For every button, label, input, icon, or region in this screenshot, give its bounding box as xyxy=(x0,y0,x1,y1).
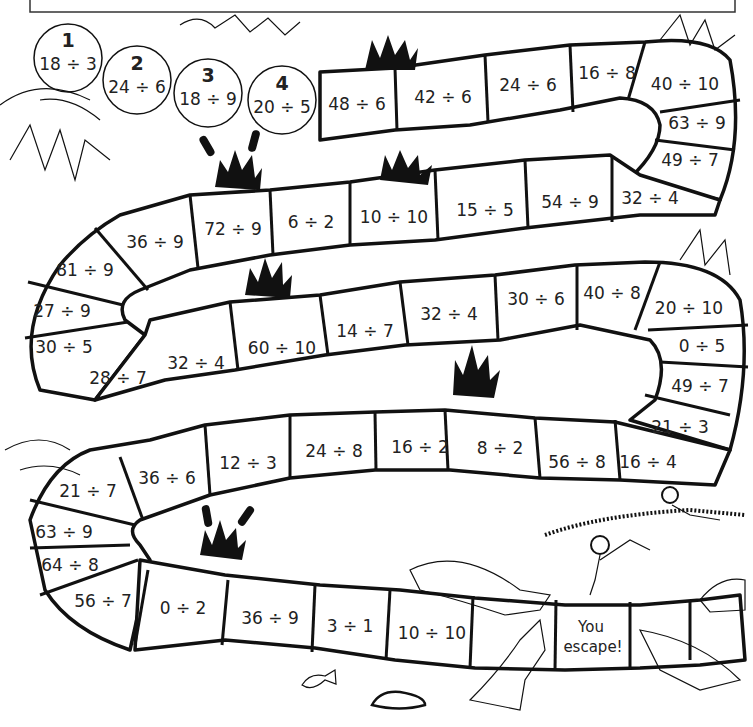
path-cell[interactable]: 30 ÷ 5 xyxy=(35,337,93,357)
path-cell[interactable]: 15 ÷ 5 xyxy=(456,200,514,220)
path-cell[interactable]: 48 ÷ 6 xyxy=(328,94,386,114)
path-cell[interactable]: 72 ÷ 9 xyxy=(204,219,262,239)
rope-icon xyxy=(545,510,745,535)
path-cell[interactable]: 21 ÷ 3 xyxy=(651,417,709,437)
start-question: 18 ÷ 9 xyxy=(179,89,237,109)
path-cell[interactable]: 6 ÷ 2 xyxy=(288,212,335,232)
path-cell[interactable]: 63 ÷ 9 xyxy=(668,113,726,133)
path-cell[interactable]: 36 ÷ 9 xyxy=(241,608,299,628)
path-cell[interactable]: 0 ÷ 2 xyxy=(160,598,207,618)
path-cell[interactable]: 54 ÷ 9 xyxy=(541,192,599,212)
finish-text-line2: escape! xyxy=(563,638,622,656)
path-cell[interactable]: 30 ÷ 6 xyxy=(507,289,565,309)
path-cell[interactable]: 60 ÷ 10 xyxy=(248,338,316,358)
path-cell[interactable]: 16 ÷ 4 xyxy=(619,452,677,472)
path-cell[interactable]: 16 ÷ 8 xyxy=(578,63,636,83)
explorer-icon xyxy=(590,487,720,595)
path-cell[interactable]: 14 ÷ 7 xyxy=(336,321,394,341)
path-cell[interactable]: 27 ÷ 9 xyxy=(33,301,91,321)
start-circle-2[interactable]: 2 24 ÷ 6 xyxy=(103,46,171,114)
start-circle-3[interactable]: 3 18 ÷ 9 xyxy=(174,59,242,127)
rock-icon xyxy=(372,692,425,709)
start-circle-4[interactable]: 4 20 ÷ 5 xyxy=(248,66,316,134)
path-cell[interactable]: 0 ÷ 5 xyxy=(679,336,726,356)
start-number: 1 xyxy=(61,29,74,51)
path-cell[interactable]: 32 ÷ 4 xyxy=(167,353,225,373)
path-cell[interactable]: 24 ÷ 6 xyxy=(499,75,557,95)
path-cell[interactable]: 8 ÷ 2 xyxy=(477,438,524,458)
start-number: 2 xyxy=(130,52,143,74)
snake-path xyxy=(30,40,745,670)
path-cell[interactable]: 49 ÷ 7 xyxy=(661,150,719,170)
snake-board: 1 18 ÷ 3 2 24 ÷ 6 3 18 ÷ 9 4 20 ÷ 5 48 ÷… xyxy=(0,0,753,727)
path-cell[interactable]: 3 ÷ 1 xyxy=(327,616,374,636)
path-cell[interactable]: 20 ÷ 10 xyxy=(655,298,723,318)
path-cell[interactable]: 21 ÷ 7 xyxy=(59,481,117,501)
path-cell[interactable]: 10 ÷ 10 xyxy=(360,207,428,227)
path-cell[interactable]: 10 ÷ 10 xyxy=(398,623,466,643)
path-cell[interactable]: 32 ÷ 4 xyxy=(621,188,679,208)
path-cell[interactable]: 40 ÷ 8 xyxy=(583,283,641,303)
path-cell[interactable]: 63 ÷ 9 xyxy=(35,522,93,542)
path-cell[interactable]: 40 ÷ 10 xyxy=(651,74,719,94)
title-box xyxy=(30,0,735,12)
path-cell[interactable]: 32 ÷ 4 xyxy=(420,304,478,324)
start-question: 24 ÷ 6 xyxy=(108,77,166,97)
path-cell[interactable]: 42 ÷ 6 xyxy=(414,87,472,107)
path-cell[interactable]: 36 ÷ 6 xyxy=(138,468,196,488)
path-cell[interactable]: 56 ÷ 8 xyxy=(548,452,606,472)
start-question: 18 ÷ 3 xyxy=(39,54,97,74)
fish-icon xyxy=(302,670,336,688)
path-cell[interactable]: 64 ÷ 8 xyxy=(41,555,99,575)
path-cell[interactable]: 28 ÷ 7 xyxy=(89,368,147,388)
path-cell[interactable]: 49 ÷ 7 xyxy=(671,376,729,396)
path-cell[interactable]: 12 ÷ 3 xyxy=(219,453,277,473)
path-cell[interactable]: 16 ÷ 2 xyxy=(391,437,449,457)
path-cell[interactable]: 24 ÷ 8 xyxy=(305,441,363,461)
start-number: 4 xyxy=(275,72,288,94)
path-cell[interactable]: 56 ÷ 7 xyxy=(74,591,132,611)
path-cell[interactable]: 36 ÷ 9 xyxy=(126,232,184,252)
finish-text-line1: You xyxy=(577,618,604,636)
start-circle-1[interactable]: 1 18 ÷ 3 xyxy=(34,24,102,92)
path-cell[interactable]: 81 ÷ 9 xyxy=(56,260,114,280)
start-question: 20 ÷ 5 xyxy=(253,97,311,117)
start-number: 3 xyxy=(201,64,214,86)
start-circles: 1 18 ÷ 3 2 24 ÷ 6 3 18 ÷ 9 4 20 ÷ 5 xyxy=(34,24,316,134)
